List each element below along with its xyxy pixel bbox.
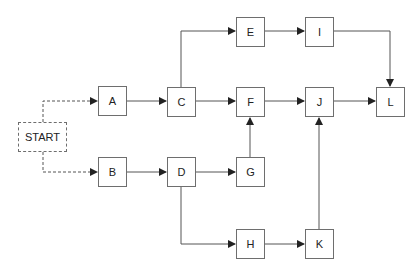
edge-c-e <box>181 31 235 87</box>
edge-i-l <box>334 31 390 86</box>
node-a: A <box>98 86 127 116</box>
node-e: E <box>236 17 265 47</box>
node-d: D <box>167 157 196 187</box>
node-k: K <box>305 229 334 259</box>
node-j: J <box>305 87 334 117</box>
edge-start-b <box>43 152 97 172</box>
node-c: C <box>167 87 196 117</box>
edge-start-a <box>43 101 97 122</box>
edge-d-h <box>181 187 235 244</box>
node-i: I <box>305 17 334 47</box>
node-f: F <box>236 87 265 117</box>
node-h: H <box>236 229 265 259</box>
node-l: L <box>376 87 405 117</box>
node-start: START <box>18 122 67 152</box>
node-g: G <box>236 157 265 187</box>
node-b: B <box>98 157 127 187</box>
